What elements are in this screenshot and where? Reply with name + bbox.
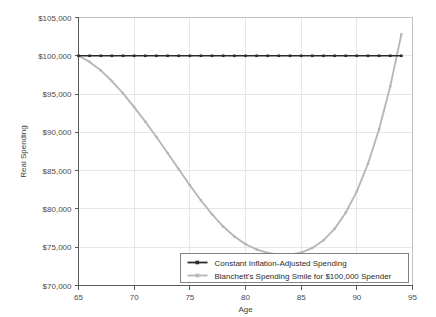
series-marker bbox=[255, 54, 258, 57]
series-marker bbox=[155, 54, 158, 57]
y-tick-label: $105,000 bbox=[38, 14, 72, 23]
legend-swatch-marker bbox=[196, 261, 200, 265]
series-marker bbox=[344, 54, 347, 57]
series-marker bbox=[222, 54, 225, 57]
x-axis-ticks-group bbox=[79, 286, 413, 290]
x-tick-label: 85 bbox=[297, 293, 306, 302]
series-marker bbox=[144, 120, 146, 122]
series-marker bbox=[77, 54, 80, 57]
y-tick-label: $90,000 bbox=[43, 128, 72, 137]
series-marker bbox=[211, 54, 214, 57]
y-tick-label: $70,000 bbox=[43, 282, 72, 291]
x-tick-label: 75 bbox=[185, 293, 194, 302]
y-axis-title: Real Spending bbox=[19, 125, 28, 177]
chart-svg: $70,000$75,000$80,000$85,000$90,000$95,0… bbox=[0, 0, 436, 317]
series-marker bbox=[400, 33, 402, 35]
x-tick-label: 70 bbox=[130, 293, 139, 302]
x-axis-title: Age bbox=[238, 305, 253, 314]
series-marker bbox=[155, 136, 157, 138]
series-marker bbox=[255, 248, 257, 250]
series-marker bbox=[356, 190, 358, 192]
x-tick-label: 90 bbox=[352, 293, 361, 302]
series-marker bbox=[311, 54, 314, 57]
series-marker bbox=[166, 152, 168, 154]
series-marker bbox=[88, 61, 90, 63]
series-marker bbox=[356, 54, 359, 57]
series-marker bbox=[244, 243, 246, 245]
legend-entry-label[interactable]: Constant Inflation-Adjusted Spending bbox=[215, 259, 347, 268]
y-tick-labels-group: $70,000$75,000$80,000$85,000$90,000$95,0… bbox=[38, 14, 72, 291]
series-marker bbox=[378, 54, 381, 57]
y-axis-ticks-group bbox=[75, 18, 79, 286]
series-marker bbox=[389, 54, 392, 57]
series-marker bbox=[289, 54, 292, 57]
series-marker bbox=[345, 212, 347, 214]
series-marker bbox=[378, 128, 380, 130]
x-tick-label: 65 bbox=[74, 293, 83, 302]
series-marker bbox=[99, 54, 102, 57]
series-marker bbox=[144, 54, 147, 57]
legend-swatch-marker bbox=[196, 274, 200, 278]
series-marker bbox=[88, 54, 91, 57]
series-marker bbox=[400, 54, 403, 57]
x-tick-label: 95 bbox=[408, 293, 417, 302]
spending-smile-chart: $70,000$75,000$80,000$85,000$90,000$95,0… bbox=[0, 0, 436, 317]
y-tick-label: $100,000 bbox=[38, 52, 72, 61]
series-marker bbox=[166, 54, 169, 57]
y-tick-label: $85,000 bbox=[43, 167, 72, 176]
series-marker bbox=[300, 54, 303, 57]
series-marker bbox=[111, 80, 113, 82]
series-marker bbox=[177, 54, 180, 57]
series-marker bbox=[122, 92, 124, 94]
series-marker bbox=[333, 228, 335, 230]
data-series-group bbox=[77, 33, 402, 256]
chart-legend[interactable]: Constant Inflation-Adjusted SpendingBlan… bbox=[181, 254, 409, 283]
series-marker bbox=[211, 213, 213, 215]
series-marker bbox=[133, 54, 136, 57]
y-tick-label: $80,000 bbox=[43, 205, 72, 214]
series-marker bbox=[266, 54, 269, 57]
series-marker bbox=[111, 54, 114, 57]
series-marker bbox=[233, 54, 236, 57]
series-marker bbox=[222, 225, 224, 227]
series-marker bbox=[133, 106, 135, 108]
series-marker bbox=[311, 247, 313, 249]
series-marker bbox=[389, 85, 391, 87]
y-tick-label: $75,000 bbox=[43, 243, 72, 252]
series-marker bbox=[244, 54, 247, 57]
series-marker bbox=[189, 184, 191, 186]
series-line bbox=[79, 34, 402, 254]
y-tick-label: $95,000 bbox=[43, 90, 72, 99]
x-tick-labels-group: 65707580859095 bbox=[74, 293, 417, 302]
series-marker bbox=[200, 199, 202, 201]
x-tick-label: 80 bbox=[241, 293, 250, 302]
series-marker bbox=[333, 54, 336, 57]
series-marker bbox=[189, 54, 192, 57]
series-marker bbox=[200, 54, 203, 57]
legend-entry-label[interactable]: Blanchett's Spending Smile for $100,000 … bbox=[215, 272, 392, 281]
series-marker bbox=[322, 54, 325, 57]
series-marker bbox=[100, 69, 102, 71]
series-marker bbox=[233, 235, 235, 237]
series-marker bbox=[178, 168, 180, 170]
series-marker bbox=[278, 54, 281, 57]
series-marker bbox=[367, 163, 369, 165]
series-marker bbox=[322, 239, 324, 241]
series-marker bbox=[367, 54, 370, 57]
series-marker bbox=[122, 54, 125, 57]
